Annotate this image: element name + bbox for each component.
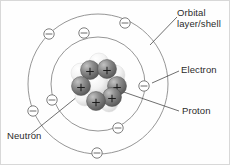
electron-marker [92, 148, 102, 158]
proton-sphere [72, 77, 91, 96]
proton-sphere [98, 60, 117, 79]
electron-leader-line [152, 71, 179, 83]
electron-marker [44, 29, 54, 39]
label-orbital-line1: Orbital [177, 7, 206, 18]
label-electron: Electron [181, 64, 217, 75]
label-orbital-layer-shell: Orbital layer/shell [177, 7, 221, 29]
label-proton: Proton [182, 105, 211, 116]
orbital-leader-line [150, 17, 177, 45]
electron-marker [28, 106, 38, 116]
electron-marker [139, 81, 149, 91]
proton-sphere [87, 92, 106, 111]
label-orbital-line2: layer/shell [177, 18, 221, 29]
label-neutron: Neutron [7, 130, 42, 141]
electron-marker [47, 95, 57, 105]
atom-diagram: Orbital layer/shell Electron Proton Neut… [0, 0, 230, 165]
electron-marker [120, 18, 130, 28]
electron-marker [113, 123, 123, 133]
electron-marker [79, 28, 89, 38]
